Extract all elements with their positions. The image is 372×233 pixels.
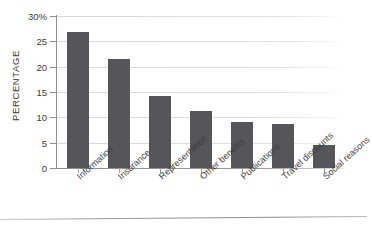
y-tick-25 bbox=[50, 41, 57, 42]
y-tick-0 bbox=[50, 168, 57, 169]
bar-representation bbox=[149, 96, 171, 168]
y-axis-tick-label: 10 bbox=[0, 112, 47, 123]
y-axis-tick-label: 15 bbox=[0, 87, 47, 98]
y-axis-tick-label: 25 bbox=[0, 36, 47, 47]
gridline-25 bbox=[57, 41, 345, 42]
y-tick-15 bbox=[50, 92, 57, 93]
bar-information bbox=[67, 32, 89, 168]
y-tick-20 bbox=[50, 67, 57, 68]
gridline-15 bbox=[57, 92, 345, 93]
y-tick-5 bbox=[50, 143, 57, 144]
bottom-divider-rule bbox=[0, 216, 367, 220]
y-tick-30 bbox=[50, 16, 57, 17]
y-axis-tick-label: 20 bbox=[0, 61, 47, 72]
y-axis-tick-label: 0 bbox=[0, 163, 47, 174]
gridline-30 bbox=[57, 16, 345, 17]
gridline-20 bbox=[57, 67, 345, 68]
y-tick-10 bbox=[50, 117, 57, 118]
y-axis-tick-label: 5 bbox=[0, 137, 47, 148]
y-axis-tick-label: 30% bbox=[0, 11, 47, 22]
